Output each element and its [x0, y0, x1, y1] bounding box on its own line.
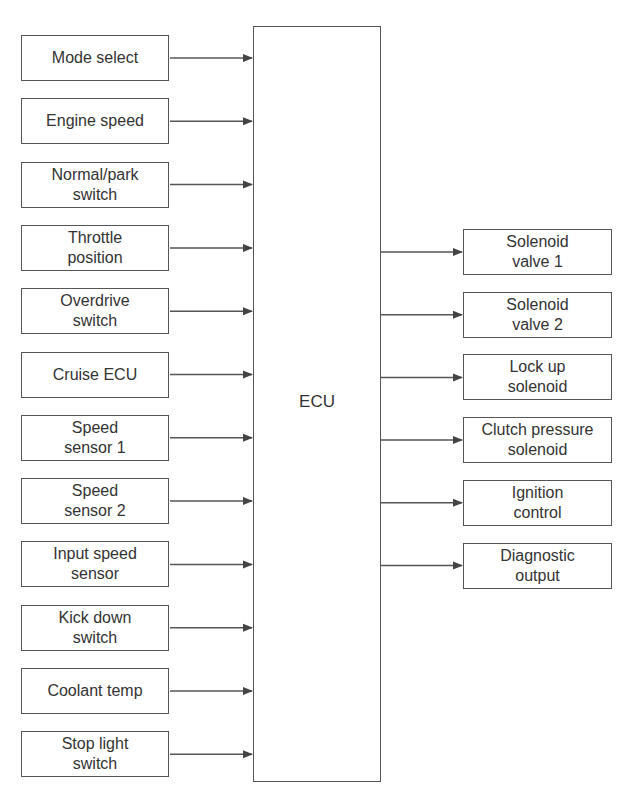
input-label-line1: Throttle — [67, 228, 122, 248]
output-block: Lock upsolenoid — [463, 354, 612, 400]
input-label-line1: Stop light — [62, 734, 129, 754]
output-label-line2: solenoid — [481, 440, 593, 460]
output-label-line1: Lock up — [508, 357, 568, 377]
output-label-line2: valve 1 — [506, 252, 568, 272]
output-label-line1: Solenoid — [506, 232, 568, 252]
input-label-line2: switch — [62, 754, 129, 774]
input-label-line1: Mode select — [52, 48, 138, 68]
input-label-line1: Input speed — [53, 544, 137, 564]
input-label-line1: Overdrive — [60, 291, 129, 311]
input-block: Cruise ECU — [21, 352, 169, 398]
input-label-line2: switch — [60, 311, 129, 331]
input-label-line1: Cruise ECU — [53, 365, 137, 385]
output-label-line2: output — [500, 566, 575, 586]
input-block: Coolant temp — [21, 668, 169, 714]
input-label-line1: Speed — [64, 418, 125, 438]
input-label-line2: switch — [59, 628, 132, 648]
input-block: Engine speed — [21, 98, 169, 144]
ecu-label: ECU — [254, 392, 380, 412]
output-block: Ignitioncontrol — [463, 480, 612, 526]
input-label-line2: sensor 1 — [64, 438, 125, 458]
output-label-line1: Clutch pressure — [481, 420, 593, 440]
output-block: Solenoidvalve 2 — [463, 292, 612, 338]
output-label-line1: Ignition — [512, 483, 564, 503]
input-label-line1: Coolant temp — [47, 681, 142, 701]
input-block: Mode select — [21, 35, 169, 81]
input-block: Kick downswitch — [21, 605, 169, 651]
input-block: Speedsensor 2 — [21, 478, 169, 524]
input-block: Stop lightswitch — [21, 731, 169, 777]
output-label-line2: valve 2 — [506, 315, 568, 335]
ecu-block: ECU — [253, 26, 381, 782]
input-block: Overdriveswitch — [21, 288, 169, 334]
input-label-line2: position — [67, 248, 122, 268]
input-block: Normal/parkswitch — [21, 162, 169, 208]
output-block: Diagnosticoutput — [463, 543, 612, 589]
input-label-line1: Speed — [64, 481, 125, 501]
input-label-line2: sensor — [53, 564, 137, 584]
input-label-line2: switch — [51, 185, 138, 205]
output-block: Clutch pressuresolenoid — [463, 417, 612, 463]
input-label-line2: sensor 2 — [64, 501, 125, 521]
input-block: Throttleposition — [21, 225, 169, 271]
input-block: Speedsensor 1 — [21, 415, 169, 461]
output-label-line2: control — [512, 503, 564, 523]
input-label-line1: Engine speed — [46, 111, 144, 131]
output-label-line2: solenoid — [508, 377, 568, 397]
output-label-line1: Diagnostic — [500, 546, 575, 566]
input-label-line1: Normal/park — [51, 165, 138, 185]
input-label-line1: Kick down — [59, 608, 132, 628]
output-block: Solenoidvalve 1 — [463, 229, 612, 275]
input-block: Input speedsensor — [21, 541, 169, 587]
output-label-line1: Solenoid — [506, 295, 568, 315]
